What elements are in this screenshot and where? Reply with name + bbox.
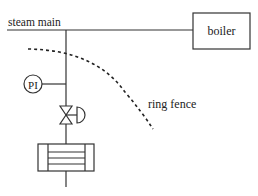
ring-fence-label: ring fence	[148, 97, 196, 111]
heat-exchanger-icon	[38, 144, 94, 171]
steam-main-label: steam main	[8, 16, 61, 28]
process-diagram: steam main boiler PI ring fence	[0, 0, 258, 196]
pressure-indicator-label: PI	[28, 79, 38, 91]
ring-fence-boundary	[28, 49, 153, 129]
boiler-label: boiler	[208, 24, 236, 38]
control-valve-icon	[60, 106, 85, 124]
diaphragm-actuator-icon	[77, 107, 85, 123]
